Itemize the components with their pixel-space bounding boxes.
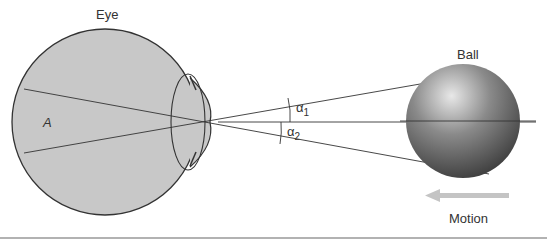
eyeball — [12, 29, 211, 215]
ball-label: Ball — [457, 47, 479, 62]
motion-label: Motion — [449, 211, 488, 226]
angle-1-label: α1 — [296, 100, 309, 118]
eye-label: Eye — [96, 7, 118, 22]
region-a-label: A — [43, 115, 52, 130]
motion-arrow — [425, 189, 509, 202]
angle-arc-1 — [288, 98, 290, 122]
angle-arc-2 — [280, 122, 281, 144]
diagram-canvas — [0, 0, 547, 241]
angle-2-label: α2 — [287, 124, 300, 142]
